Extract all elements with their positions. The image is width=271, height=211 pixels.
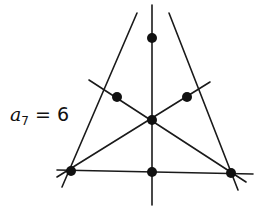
bottom-midpoint-point bbox=[147, 167, 157, 177]
left-midpoint-point bbox=[112, 92, 122, 102]
left-side-line bbox=[62, 13, 137, 187]
centroid-point bbox=[147, 115, 157, 125]
subscript: 7 bbox=[21, 114, 29, 128]
bottom-left-vertex-point bbox=[66, 166, 76, 176]
bottom-right-vertex-point bbox=[226, 168, 236, 178]
variable: a bbox=[10, 103, 21, 125]
equals-sign: = bbox=[35, 103, 51, 125]
top-vertex-point bbox=[147, 33, 157, 43]
value: 6 bbox=[57, 103, 69, 125]
right-midpoint-point bbox=[182, 92, 192, 102]
formula-label: a7 = 6 bbox=[10, 103, 69, 125]
